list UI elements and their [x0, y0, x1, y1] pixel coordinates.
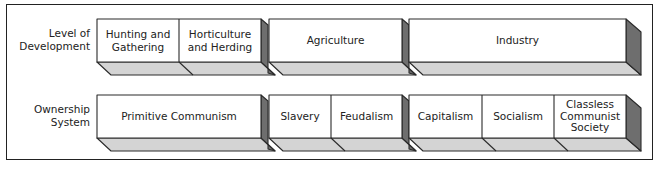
cell-label-line: Primitive Communism	[121, 110, 237, 123]
cell-classless-communist-society: Classless Communist Society	[554, 95, 626, 138]
row-label-line: Ownership	[2, 103, 90, 116]
cell-label-line: Agriculture	[307, 34, 365, 47]
cell-capitalism: Capitalism	[409, 95, 482, 138]
cell-label-line: Gathering	[112, 41, 164, 54]
cell-label-line: Capitalism	[418, 110, 473, 123]
cell-hunting-and-gathering: Hunting and Gathering	[97, 19, 179, 62]
cell-label-line: Industry	[496, 34, 539, 47]
row-label-line: System	[2, 116, 90, 129]
row-label-level-of-development: Level of Development	[2, 27, 90, 53]
cell-primitive-communism: Primitive Communism	[97, 95, 261, 138]
cell-label-line: and Herding	[188, 41, 252, 54]
cell-feudalism: Feudalism	[331, 95, 402, 138]
row-label-line: Level of	[2, 27, 90, 40]
cell-slavery: Slavery	[269, 95, 331, 138]
cell-horticulture-and-herding: Horticulture and Herding	[179, 19, 261, 62]
cell-label-line: Slavery	[280, 110, 319, 123]
row-label-ownership-system: Ownership System	[2, 103, 90, 129]
cell-label-line: Horticulture	[189, 28, 251, 41]
cell-agriculture: Agriculture	[269, 19, 402, 62]
row-label-line: Development	[2, 40, 90, 53]
cell-label-line: Feudalism	[340, 110, 393, 123]
cell-socialism: Socialism	[482, 95, 554, 138]
cell-label-line: Hunting and	[106, 28, 171, 41]
cell-industry: Industry	[409, 19, 626, 62]
cell-label-line: Society	[571, 122, 610, 134]
cell-label-line: Socialism	[493, 110, 543, 123]
